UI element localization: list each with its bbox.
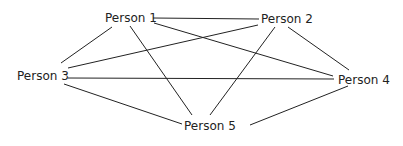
node-person-4: Person 4	[338, 73, 390, 87]
edge-p1-p3	[61, 27, 112, 63]
edge-p1-p5	[130, 26, 192, 115]
edge-p1-p4	[154, 23, 333, 76]
edge-p2-p3	[68, 25, 258, 68]
edge-p4-p5	[250, 86, 348, 125]
edge-p3-p4	[68, 78, 334, 79]
node-person-2: Person 2	[261, 12, 313, 26]
node-person-3: Person 3	[17, 69, 69, 83]
node-person-1: Person 1	[105, 11, 157, 25]
edge-p2-p4	[288, 27, 349, 70]
edge-p3-p5	[64, 84, 182, 124]
edge-p2-p5	[210, 27, 275, 115]
edge-p1-p2	[153, 18, 259, 19]
network-diagram: Person 1 Person 2 Person 3 Person 4 Pers…	[0, 0, 403, 146]
node-person-5: Person 5	[184, 119, 236, 133]
